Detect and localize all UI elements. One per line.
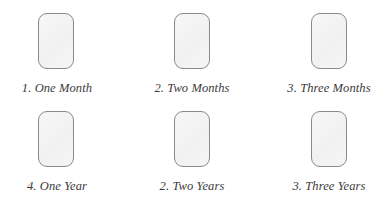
specimen-caption: 4. One Year (27, 179, 87, 193)
specimen-caption: 1. One Month (22, 81, 92, 95)
specimen-caption: 3. Three Months (287, 81, 370, 95)
specimen-grid-figure: 1. One Month 2. Two Months 3. Three Mont… (0, 0, 384, 207)
specimen-caption: 2. Two Months (154, 81, 229, 95)
rounded-rectangle-tablet-icon (311, 111, 347, 167)
specimen-cell-three-years: 3. Three Years (256, 106, 384, 204)
specimen-grid: 1. One Month 2. Two Months 3. Three Mont… (0, 0, 384, 207)
rounded-rectangle-tablet-icon (174, 111, 210, 167)
rounded-rectangle-tablet-icon (174, 13, 210, 69)
specimen-cell-two-months: 2. Two Months (128, 8, 256, 106)
specimen-cell-three-months: 3. Three Months (256, 8, 384, 106)
rounded-rectangle-tablet-icon (311, 13, 347, 69)
rounded-rectangle-tablet-icon (38, 111, 74, 167)
specimen-caption: 2. Two Years (160, 179, 225, 193)
specimen-cell-one-month: 1. One Month (0, 8, 128, 106)
rounded-rectangle-tablet-icon (38, 13, 74, 69)
specimen-cell-two-years: 2. Two Years (128, 106, 256, 204)
specimen-caption: 3. Three Years (292, 179, 365, 193)
specimen-cell-one-year: 4. One Year (0, 106, 128, 204)
